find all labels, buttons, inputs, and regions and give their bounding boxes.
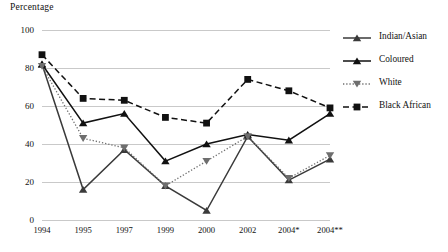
x-axis-tick: 1997 bbox=[116, 225, 133, 235]
x-axis-tick: 1999 bbox=[157, 225, 174, 235]
y-axis-title: Percentage bbox=[10, 2, 54, 12]
data-point-marker bbox=[162, 114, 169, 121]
legend-swatch-icon bbox=[342, 99, 372, 111]
data-point-marker bbox=[121, 97, 128, 104]
legend-item-white[interactable]: White bbox=[342, 70, 446, 93]
y-axis-tick: 80 bbox=[25, 63, 34, 73]
series-line bbox=[42, 64, 330, 161]
y-axis-tick: 0 bbox=[30, 215, 35, 225]
series-black-african bbox=[39, 51, 334, 126]
legend-swatch-icon bbox=[342, 76, 372, 88]
legend-swatch-icon bbox=[342, 53, 372, 65]
x-axis-tick: 2000 bbox=[198, 225, 215, 235]
data-point-marker bbox=[39, 51, 46, 58]
data-point-marker bbox=[354, 103, 361, 110]
plot-area bbox=[42, 30, 330, 220]
data-point-marker bbox=[80, 95, 87, 102]
y-axis-tick: 40 bbox=[25, 139, 34, 149]
x-axis-tick: 1994 bbox=[33, 225, 50, 235]
y-axis-tick: 20 bbox=[25, 177, 34, 187]
legend-label: White bbox=[379, 77, 402, 87]
legend: Indian/AsianColouredWhiteBlack African bbox=[342, 24, 446, 116]
x-axis-tick: 1995 bbox=[75, 225, 92, 235]
x-axis-tick: 2002 bbox=[239, 225, 256, 235]
data-point-marker bbox=[327, 105, 334, 112]
y-axis-tick: 100 bbox=[21, 25, 35, 35]
legend-swatch-icon bbox=[342, 30, 372, 42]
y-axis-tick: 60 bbox=[25, 101, 34, 111]
line-chart: Percentage 020406080100 1994199519971999… bbox=[0, 0, 448, 252]
legend-label: Coloured bbox=[379, 54, 414, 64]
x-axis-tick: 2004** bbox=[317, 225, 343, 235]
data-point-marker bbox=[285, 87, 292, 94]
legend-item-indian-asian[interactable]: Indian/Asian bbox=[342, 24, 446, 47]
data-point-marker bbox=[326, 152, 334, 159]
legend-item-black-african[interactable]: Black African bbox=[342, 93, 446, 116]
legend-label: Indian/Asian bbox=[379, 31, 427, 41]
gridline bbox=[42, 220, 330, 221]
legend-label: Black African bbox=[379, 100, 431, 110]
data-point-marker bbox=[203, 120, 210, 127]
x-axis-tick: 2004* bbox=[278, 225, 299, 235]
series-layer bbox=[42, 30, 330, 220]
legend-item-coloured[interactable]: Coloured bbox=[342, 47, 446, 70]
data-point-marker bbox=[79, 135, 87, 142]
data-point-marker bbox=[244, 76, 251, 83]
data-point-marker bbox=[120, 110, 128, 117]
y-axis-tick-labels: 020406080100 bbox=[0, 30, 40, 220]
x-axis-tick-labels: 1994199519971999200020022004*2004** bbox=[42, 225, 330, 245]
series-coloured bbox=[38, 61, 334, 165]
data-point-marker bbox=[202, 158, 210, 165]
